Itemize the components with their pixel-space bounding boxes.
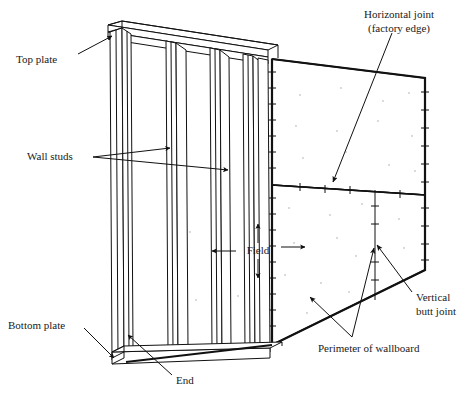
label-top-plate: Top plate (16, 53, 57, 65)
label-horizontal-joint-line2: (factory edge) (368, 22, 430, 35)
wall-stud-2 (210, 48, 231, 352)
wallboard-lower-panel (272, 185, 425, 345)
label-vertical-butt-joint-line2: butt joint (416, 305, 456, 317)
wallboard-diagram: Field Top plate Wall studs Bottom plate … (0, 0, 469, 401)
wall-studs-group (166, 41, 270, 352)
corner-stud (110, 28, 133, 360)
field-label: Field (247, 244, 270, 256)
leader-bottom-plate (84, 328, 114, 358)
label-end: End (176, 374, 194, 386)
label-horizontal-joint-line1: Horizontal joint (364, 8, 434, 20)
wall-stud-1 (166, 41, 188, 352)
label-wall-studs: Wall studs (27, 150, 73, 162)
label-vertical-butt-joint-line1: Vertical (416, 291, 450, 303)
leader-top-plate (78, 36, 112, 54)
wall-stud-4-behind-board (258, 58, 270, 352)
wallboard-upper-panel (272, 59, 425, 195)
label-perimeter-of-wallboard: Perimeter of wallboard (318, 342, 420, 354)
label-bottom-plate: Bottom plate (8, 319, 65, 331)
diagram-canvas: Field Top plate Wall studs Bottom plate … (0, 0, 469, 401)
